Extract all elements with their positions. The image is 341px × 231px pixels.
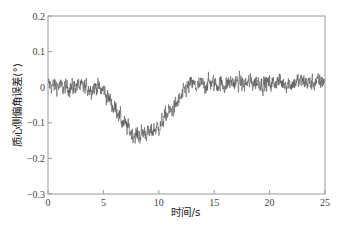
y-tick-label: 0: [40, 82, 45, 93]
x-tick-label: 20: [265, 197, 275, 208]
y-tick-label: −0.3: [27, 189, 45, 200]
y-tick-label: 0.1: [33, 46, 46, 57]
y-tick-label: −0.1: [27, 117, 45, 128]
plot-frame: [48, 16, 325, 194]
y-tick-label: 0.2: [33, 11, 46, 22]
x-tick-label: 15: [209, 197, 219, 208]
x-tick-label: 5: [101, 197, 106, 208]
series-path: [48, 71, 325, 143]
x-tick-label: 25: [320, 197, 330, 208]
x-axis-label: 时间/s: [171, 206, 200, 218]
y-axis-label: 质心侧偏角误差(°): [11, 63, 23, 146]
x-tick-label: 0: [46, 197, 51, 208]
line-chart: 0.20.10−0.1−0.2−0.3 0510152025 时间/s 质心侧偏…: [0, 0, 341, 231]
x-tick-label: 10: [154, 197, 164, 208]
y-tick-label: −0.2: [27, 153, 45, 164]
series-line: [48, 71, 325, 143]
